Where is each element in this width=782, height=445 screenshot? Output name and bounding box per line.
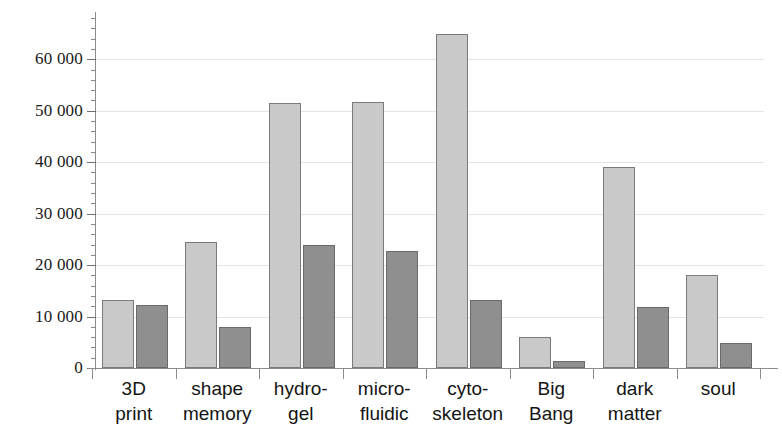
bar — [519, 337, 551, 368]
category-label-line2: print — [92, 401, 176, 426]
category-label-line1: hydro- — [259, 376, 343, 401]
bar — [686, 275, 718, 368]
category-label-line2: Bang — [510, 401, 594, 426]
bar — [219, 327, 251, 368]
plot-area — [96, 18, 764, 368]
bar — [553, 361, 585, 368]
category-label-line2: skeleton — [426, 401, 510, 426]
bar-group — [96, 18, 180, 368]
y-tick-major-40000 — [87, 162, 96, 163]
bar — [136, 305, 168, 368]
category-label: cyto-skeleton — [426, 376, 510, 426]
bar-group — [597, 18, 681, 368]
bar — [352, 102, 384, 368]
category-label: BigBang — [510, 376, 594, 426]
bar-group — [263, 18, 347, 368]
category-label-line1: cyto- — [426, 376, 510, 401]
bar — [470, 300, 502, 368]
bar-group — [347, 18, 431, 368]
category-label-line2: memory — [176, 401, 260, 426]
bar — [386, 251, 418, 368]
y-tick-major-10000 — [87, 317, 96, 318]
bar-group — [514, 18, 598, 368]
bar — [303, 245, 335, 368]
category-label-line1: dark — [593, 376, 677, 401]
y-tick-label-10000: 10 000 — [35, 307, 83, 327]
bar — [269, 103, 301, 368]
bar — [720, 343, 752, 368]
category-label-line2: gel — [259, 401, 343, 426]
y-tick-label-40000: 40 000 — [35, 152, 83, 172]
category-label: shapememory — [176, 376, 260, 426]
category-label: hydro-gel — [259, 376, 343, 426]
category-separator — [760, 368, 761, 379]
category-label-line1: Big — [510, 376, 594, 401]
bar-group — [180, 18, 264, 368]
bar — [603, 167, 635, 368]
bar-groups — [96, 18, 764, 368]
bar — [436, 34, 468, 368]
bar-group — [681, 18, 765, 368]
bar-chart: 010 00020 00030 00040 00050 00060 000 3D… — [0, 0, 782, 445]
category-label-line2: fluidic — [343, 401, 427, 426]
bar — [637, 307, 669, 368]
bar — [185, 242, 217, 368]
category-label: soul — [677, 376, 761, 401]
y-tick-label-0: 0 — [74, 358, 83, 378]
category-label-line1: 3D — [92, 376, 176, 401]
bar-group — [430, 18, 514, 368]
category-label-line1: micro- — [343, 376, 427, 401]
category-label-line1: soul — [677, 376, 761, 401]
category-label: micro-fluidic — [343, 376, 427, 426]
y-tick-label-30000: 30 000 — [35, 204, 83, 224]
category-label-line1: shape — [176, 376, 260, 401]
y-tick-major-30000 — [87, 214, 96, 215]
y-tick-major-20000 — [87, 265, 96, 266]
category-label: darkmatter — [593, 376, 677, 426]
y-axis: 010 00020 00030 00040 00050 00060 000 — [0, 0, 96, 445]
x-axis-line — [88, 368, 778, 369]
category-label-line2: matter — [593, 401, 677, 426]
y-tick-label-50000: 50 000 — [35, 101, 83, 121]
y-tick-label-20000: 20 000 — [35, 255, 83, 275]
y-tick-major-50000 — [87, 111, 96, 112]
bar — [102, 300, 134, 368]
y-tick-label-60000: 60 000 — [35, 49, 83, 69]
y-tick-major-60000 — [87, 59, 96, 60]
category-label: 3Dprint — [92, 376, 176, 426]
